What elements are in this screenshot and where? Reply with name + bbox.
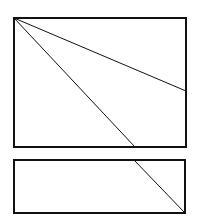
diagonal-line-top-to-right-edge	[14, 18, 186, 91]
diagonal-line-top-to-bottom-edge	[14, 18, 135, 147]
diagonal-line-lower-rectangle	[134, 160, 185, 213]
top-rectangle	[14, 18, 186, 147]
geometry-diagram	[0, 0, 199, 223]
